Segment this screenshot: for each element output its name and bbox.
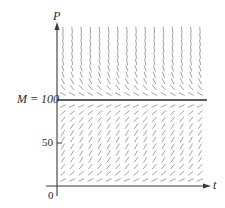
slope-segment — [115, 105, 121, 108]
slope-segment — [135, 78, 138, 84]
slope-segment — [172, 40, 173, 46]
slope-segment — [81, 52, 82, 58]
slope-segment — [199, 65, 201, 71]
slope-segment — [88, 164, 92, 169]
slope-segment — [198, 137, 201, 143]
slope-segment — [90, 33, 91, 39]
slope-segment — [188, 179, 194, 182]
slope-segment — [163, 59, 164, 65]
slope-segment — [80, 65, 82, 71]
slope-segment — [170, 105, 176, 108]
slope-segment — [97, 117, 101, 122]
slope-segment — [127, 33, 128, 39]
slope-segment — [188, 171, 193, 175]
slope-segment — [142, 179, 148, 182]
slope-segment — [153, 65, 155, 71]
slope-segment — [125, 117, 129, 122]
slope-segment — [161, 111, 166, 115]
slope-segment — [116, 157, 120, 162]
slope-segment — [115, 111, 120, 115]
slope-segment — [108, 72, 110, 78]
slope-segment — [90, 46, 91, 52]
slope-segment — [106, 179, 112, 182]
slope-segment — [162, 130, 165, 135]
slope-segment — [198, 150, 201, 155]
slope-segment — [117, 27, 118, 33]
slope-segment — [180, 164, 184, 169]
y-axis-arrow-icon — [55, 22, 60, 30]
slope-segment — [145, 40, 146, 46]
slope-segment — [107, 164, 111, 169]
slope-segment — [61, 144, 64, 150]
slope-segment — [79, 117, 83, 122]
slope-segment — [99, 40, 100, 46]
slope-segment — [153, 150, 156, 155]
slope-segment — [161, 105, 167, 108]
slope-segment — [115, 179, 121, 182]
slope-segment — [163, 46, 164, 52]
slope-segment — [70, 150, 73, 155]
slope-segment — [181, 27, 182, 33]
slope-segment — [125, 144, 128, 150]
slope-segment — [80, 72, 82, 78]
slope-segment — [152, 111, 157, 115]
slope-segment — [97, 164, 101, 169]
slope-segment — [81, 59, 82, 65]
slope-segment — [99, 46, 100, 52]
slope-segment — [163, 52, 164, 58]
slope-segment — [108, 59, 109, 65]
slope-segment — [145, 46, 146, 52]
slope-segment — [154, 27, 155, 33]
y-axis-label: P — [53, 10, 60, 22]
slope-segment — [80, 144, 83, 150]
slope-segment — [125, 171, 130, 175]
slope-segment — [180, 78, 183, 84]
slope-segment — [189, 85, 193, 90]
slope-segment — [97, 171, 102, 175]
slope-segment — [171, 144, 174, 150]
slope-segment — [106, 111, 111, 115]
slope-segment — [124, 105, 130, 108]
slope-segment — [143, 111, 148, 115]
x-axis-arrow-icon — [203, 184, 211, 189]
slope-segment — [200, 40, 201, 46]
slope-segment — [190, 59, 191, 65]
origin-label: 0 — [48, 190, 54, 201]
slope-segment — [97, 93, 103, 96]
slope-segment — [89, 157, 93, 162]
slope-segment — [99, 52, 100, 58]
slope-segment — [197, 179, 203, 182]
slope-segment — [71, 78, 74, 84]
slope-segment — [162, 157, 166, 162]
slope-segment — [190, 40, 191, 46]
slope-segment — [60, 179, 66, 182]
slope-segment — [126, 59, 127, 65]
slope-segment — [189, 130, 192, 135]
slope-segment — [72, 27, 73, 33]
slope-segment — [153, 130, 156, 135]
slope-segment — [181, 52, 182, 58]
slope-segment — [90, 59, 91, 65]
slope-segment — [198, 111, 203, 115]
slope-segment — [107, 150, 110, 155]
slope-segment — [89, 78, 92, 84]
slope-segment — [172, 65, 174, 71]
slope-segment — [161, 93, 167, 96]
slope-segment — [162, 150, 165, 155]
slope-segment — [179, 171, 184, 175]
slope-segment — [153, 78, 156, 84]
slope-segment — [125, 124, 129, 129]
slope-segment — [171, 164, 175, 169]
slope-segment — [63, 46, 64, 52]
slope-segment — [116, 150, 119, 155]
slope-segment — [125, 157, 129, 162]
slope-segment — [116, 78, 119, 84]
slope-segment — [108, 27, 109, 33]
slope-segment — [98, 72, 100, 78]
slope-segment — [143, 124, 147, 129]
slope-segment — [117, 40, 118, 46]
slope-segment — [79, 157, 83, 162]
slope-segment — [180, 157, 184, 162]
slope-segment — [71, 65, 73, 71]
slope-segment — [133, 105, 139, 108]
